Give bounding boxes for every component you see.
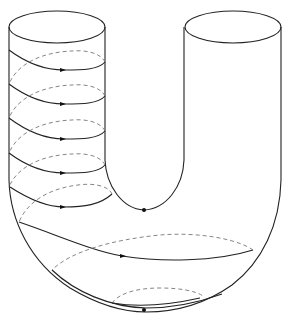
point-inner-bottom xyxy=(142,208,146,212)
right-cylinder-top-rim xyxy=(185,11,281,43)
arrow-icon xyxy=(60,68,66,72)
arrow-icon xyxy=(60,171,66,175)
u-tube-surface-diagram xyxy=(0,0,290,320)
arrow-icon xyxy=(120,254,126,258)
outer-silhouette xyxy=(9,27,281,312)
arrow-icon xyxy=(60,205,66,209)
inner-silhouette xyxy=(105,27,184,210)
bottom-closed-curve xyxy=(52,270,222,308)
point-outer-bottom xyxy=(142,308,146,312)
arrow-icon xyxy=(60,102,66,106)
arrow-icon xyxy=(60,137,66,141)
left-cylinder-top-rim xyxy=(9,11,105,43)
helix-curve xyxy=(9,50,253,270)
helix-arrow-markers xyxy=(60,68,126,258)
